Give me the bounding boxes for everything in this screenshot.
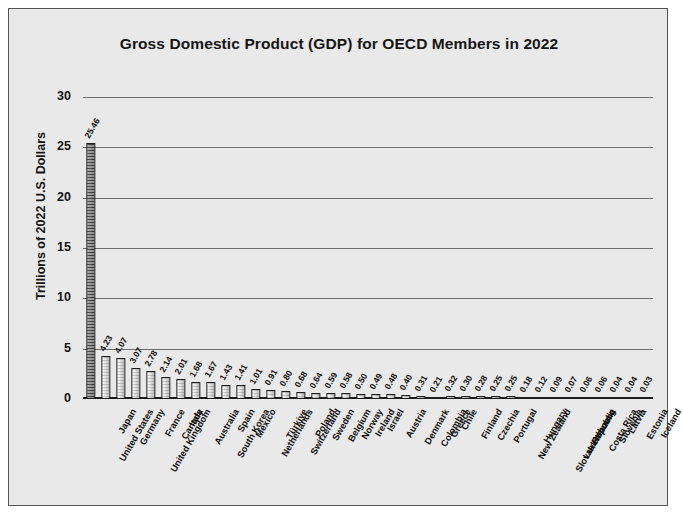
bar-slot: 0.28	[473, 97, 488, 399]
bar-slot: 0.12	[533, 97, 548, 399]
bar	[431, 397, 440, 399]
bar-slot: 1.01	[248, 97, 263, 399]
bar-value-label: 0.28	[472, 374, 489, 393]
bar-slot: 0.59	[323, 97, 338, 399]
bar	[251, 389, 260, 399]
bar	[566, 397, 575, 399]
bar-value-label: 0.04	[622, 375, 639, 394]
bar	[206, 382, 215, 399]
bar-slot: 2.01	[173, 97, 188, 399]
bar-value-label: 0.40	[397, 372, 414, 391]
bar-value-label: 2.78	[142, 349, 159, 368]
bar	[296, 392, 305, 399]
y-tick-label: 5	[11, 341, 71, 355]
bar-value-label: 0.59	[322, 371, 339, 390]
bar	[611, 397, 620, 399]
bar-value-label: 4.07	[112, 336, 129, 355]
bar-slot: 0.80	[278, 97, 293, 399]
bar-slot: 1.67	[203, 97, 218, 399]
bar-slot: 0.25	[503, 97, 518, 399]
y-tick-label: 10	[11, 290, 71, 304]
bar	[521, 397, 530, 399]
bar-value-label: 2.14	[157, 355, 174, 374]
bar-value-label: 0.06	[577, 375, 594, 394]
bar	[416, 396, 425, 399]
bar-value-label: 0.91	[262, 367, 279, 386]
bar-value-label: 4.23	[97, 334, 114, 353]
bar	[476, 396, 485, 399]
bar-value-label: 0.30	[457, 373, 474, 392]
chart-frame: Gross Domestic Product (GDP) for OECD Me…	[8, 8, 668, 506]
bar-slot: 0.04	[608, 97, 623, 399]
bar-value-label: 0.58	[337, 371, 354, 390]
bar-value-label: 0.06	[592, 375, 609, 394]
bar-value-label: 0.32	[442, 373, 459, 392]
y-tick-label: 30	[11, 89, 71, 103]
bar-slot: 1.41	[233, 97, 248, 399]
bar	[326, 393, 335, 399]
bar-slot: 0.91	[263, 97, 278, 399]
bar-slot: 0.40	[398, 97, 413, 399]
bar-slot: 0.49	[368, 97, 383, 399]
bar-slot: 2.78	[143, 97, 158, 399]
bar-slot: 0.58	[338, 97, 353, 399]
bar-slot: 0.06	[578, 97, 593, 399]
bar-value-label: 0.21	[427, 374, 444, 393]
bar-value-label: 0.03	[637, 375, 654, 394]
bar-value-label: 0.25	[502, 374, 519, 393]
bar-series: 25.464.234.073.072.782.142.011.681.671.4…	[83, 97, 653, 399]
bar	[506, 396, 515, 399]
bar-slot: 0.48	[383, 97, 398, 399]
bar	[266, 390, 275, 399]
bar	[116, 358, 125, 399]
bar-slot: 0.64	[308, 97, 323, 399]
bar	[236, 385, 245, 399]
bar-value-label: 0.48	[382, 372, 399, 391]
y-tick-label: 20	[11, 190, 71, 204]
bar-value-label: 1.01	[247, 366, 264, 385]
bar	[86, 143, 95, 399]
bar	[281, 391, 290, 399]
bar	[221, 385, 230, 399]
bar	[491, 396, 500, 399]
bar	[176, 379, 185, 399]
bar-slot: 0.03	[638, 97, 653, 399]
bar-value-label: 0.18	[517, 375, 534, 394]
bar-slot: 0.07	[563, 97, 578, 399]
chart-title: Gross Domestic Product (GDP) for OECD Me…	[9, 35, 669, 53]
bar-slot: 0.50	[353, 97, 368, 399]
bar	[596, 397, 605, 399]
plot-area: 051015202530 25.464.234.073.072.782.142.…	[83, 97, 653, 399]
bar	[146, 371, 155, 399]
bar-slot: 0.06	[593, 97, 608, 399]
bar-slot: 25.46	[83, 97, 98, 399]
bar-slot: 1.43	[218, 97, 233, 399]
y-tick-label: 0	[11, 391, 71, 405]
bar-value-label: 0.68	[292, 370, 309, 389]
bar	[641, 397, 650, 399]
bar	[311, 393, 320, 399]
bar	[626, 397, 635, 399]
bar-slot: 0.30	[458, 97, 473, 399]
bar-value-label: 1.41	[232, 362, 249, 381]
bar-value-label: 0.80	[277, 368, 294, 387]
bar-slot: 0.68	[293, 97, 308, 399]
bar-value-label: 0.25	[487, 374, 504, 393]
bar-slot: 4.23	[98, 97, 113, 399]
bar-value-label: 0.12	[532, 375, 549, 394]
bar-slot: 0.04	[623, 97, 638, 399]
bar	[386, 394, 395, 399]
bar-slot: 1.68	[188, 97, 203, 399]
y-tick-label: 25	[11, 139, 71, 153]
bar	[101, 356, 110, 399]
bar	[461, 396, 470, 399]
bar-slot: 3.07	[128, 97, 143, 399]
bar	[341, 393, 350, 399]
bar-value-label: 0.04	[607, 375, 624, 394]
bar	[401, 395, 410, 399]
bar-value-label: 0.49	[367, 372, 384, 391]
bar-value-label: 2.01	[172, 356, 189, 375]
x-axis-category-labels: United StatesJapanGermanyUnited KingdomF…	[83, 402, 653, 502]
bar-value-label: 1.43	[217, 362, 234, 381]
bar-value-label: 1.68	[187, 360, 204, 379]
